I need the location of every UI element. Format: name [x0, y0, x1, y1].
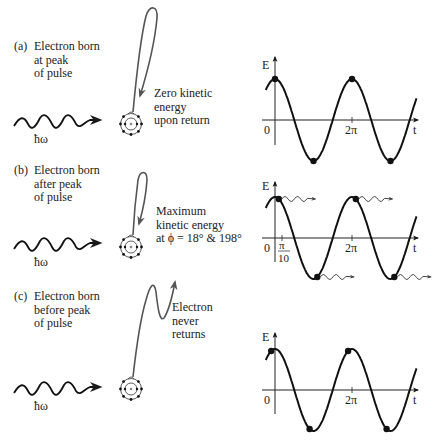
emitted-photon-icon: [359, 197, 393, 202]
graph-a: E 0 2π t: [262, 57, 418, 164]
ionization-marker: [310, 158, 316, 164]
note-c: Electron never returns: [172, 301, 213, 342]
photon-label: ħω: [34, 400, 48, 414]
caption-b: (b)Electron born after peak of pulse: [14, 164, 100, 205]
panel-tag: (a): [14, 40, 34, 54]
two-pi-label: 2π: [345, 123, 357, 137]
ionization-marker: [345, 348, 351, 354]
atom-icon: [119, 377, 143, 401]
atom-icon: [119, 235, 143, 259]
electron-trajectory-loop: [133, 173, 147, 236]
photon-label: ħω: [34, 256, 48, 270]
caption-a: (a)Electron born at peak of pulse: [14, 40, 100, 81]
photon-wave-icon: [14, 382, 100, 395]
pi-over-10-numerator: π: [279, 239, 285, 251]
photon-wave-icon: [14, 115, 100, 128]
origin-label: 0: [264, 123, 270, 137]
ionization-marker: [387, 158, 393, 164]
ionization-marker: [306, 426, 312, 432]
ionization-marker: [314, 274, 320, 280]
caption-c: (c)Electron born before peak of pulse: [14, 290, 100, 331]
ionization-marker: [272, 76, 278, 82]
x-axis-label: t: [413, 123, 417, 137]
pi-over-10-denominator: 10: [278, 252, 290, 264]
ionization-marker: [391, 274, 397, 280]
y-axis-label: E: [262, 58, 269, 72]
y-axis-label: E: [262, 179, 269, 193]
note-b: Maximum kinetic energy at ϕ = 18° & 198°: [156, 205, 242, 246]
ionization-marker: [383, 426, 389, 432]
x-axis-label: t: [413, 241, 417, 255]
electron-trajectory-escape: [133, 282, 175, 377]
graph-b: E 0 π 10 2π t: [262, 179, 431, 280]
photon-label: ħω: [34, 133, 48, 147]
two-pi-label: 2π: [345, 393, 357, 407]
emitted-photon-icon: [320, 275, 354, 280]
two-pi-label: 2π: [345, 241, 357, 255]
emitted-photon-icon: [282, 197, 316, 202]
note-a: Zero kinetic energy upon return: [154, 87, 212, 128]
panel-tag: (c): [14, 290, 34, 304]
ionization-marker: [268, 348, 274, 354]
ionization-marker: [349, 76, 355, 82]
ionization-marker: [276, 196, 282, 202]
origin-label: 0: [264, 393, 270, 407]
graph-c: E 0 2π t: [262, 330, 418, 432]
origin-label: 0: [264, 241, 270, 255]
photon-wave-icon: [14, 238, 100, 251]
x-axis-label: t: [413, 393, 417, 407]
emitted-photon-icon: [397, 275, 431, 280]
y-axis-label: E: [262, 330, 269, 344]
ionization-marker: [353, 196, 359, 202]
atom-icon: [119, 112, 143, 136]
panel-tag: (b): [14, 164, 34, 178]
